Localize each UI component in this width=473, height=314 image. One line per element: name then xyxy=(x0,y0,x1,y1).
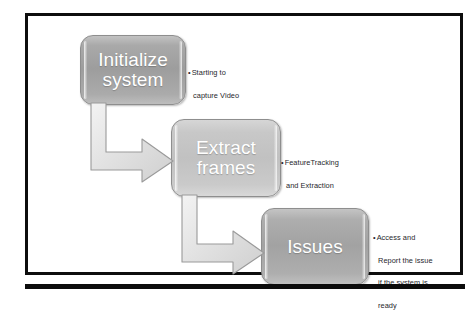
annotation-line: Report the issue xyxy=(373,255,473,266)
node-label-line1: Issues xyxy=(287,236,343,257)
annotation-line: capture Video xyxy=(188,90,283,101)
connector-arrow-initialize-to-extract xyxy=(89,102,175,185)
process-node-extract-frames[interactable]: Extract frames xyxy=(171,119,281,197)
node-label-line2: system xyxy=(103,69,164,90)
annotation-extract-frames: FeatureTracking and Extraction xyxy=(281,146,381,202)
node-label-line1: Extract xyxy=(196,137,256,158)
process-node-issues[interactable]: Issues xyxy=(261,208,369,285)
node-label-initialize: Initialize system xyxy=(89,50,177,90)
annotation-initialize-system: Starting to capture Video xyxy=(188,56,283,112)
annotation-line: ready xyxy=(373,300,473,311)
annotation-line: and Extraction xyxy=(281,180,381,191)
node-label-extract: Extract frames xyxy=(187,138,265,178)
process-node-initialize-system[interactable]: Initialize system xyxy=(80,35,186,105)
connector-arrow-extract-to-issues xyxy=(180,194,266,277)
node-label-line2: frames xyxy=(197,157,256,178)
node-label-line1: Initialize xyxy=(98,49,168,70)
bottom-rule-divider xyxy=(25,284,465,289)
page-frame: Initialize system Extract frames Issues … xyxy=(25,13,463,275)
annotation-line: Starting to xyxy=(188,67,283,78)
annotation-line: FeatureTracking xyxy=(281,157,381,168)
annotation-issues: Access and Report the issue if the syste… xyxy=(373,221,473,314)
annotation-line: Access and xyxy=(373,232,473,243)
node-label-issues: Issues xyxy=(278,237,352,257)
